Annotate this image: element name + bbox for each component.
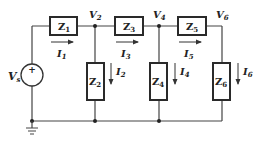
i1-label: I1 [56,48,67,61]
shunt-impedance-z2: Z2 I2 [87,63,126,100]
node-v2-label: V2 [89,9,102,22]
series-impedance-z5: Z5 I5 [178,17,206,61]
i4-label: I4 [179,66,190,79]
junction-dot-z4-bottom [157,119,161,123]
junction-dot-v2 [93,24,97,28]
i5-label: I5 [183,48,194,61]
i2-label: I2 [115,66,126,79]
ground-icon [26,121,38,134]
i3-label: I3 [120,48,131,61]
node-v6-label: V6 [216,9,229,22]
shunt-impedance-z4: Z4 I4 [150,63,190,100]
ladder-circuit-diagram: + Vs Z1 I1 Z3 I3 Z5 I5 V2 V4 V6 Z2 I2 Z4 [0,0,261,153]
shunt-impedance-z6: Z6 I6 [213,63,253,100]
source-polarity: + [28,65,36,75]
series-impedance-z3: Z3 I3 [115,17,143,61]
voltage-source: + Vs [8,64,43,86]
node-v4-label: V4 [153,9,166,22]
junction-dot-z2-bottom [93,119,97,123]
source-label: Vs [8,70,21,84]
i6-label: I6 [242,66,253,79]
junction-dot-v4 [157,24,161,28]
series-impedance-z1: Z1 I1 [50,17,77,61]
wires [32,26,222,121]
